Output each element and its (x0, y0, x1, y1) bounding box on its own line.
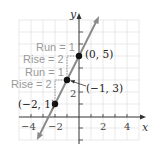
graph-area: y x −4 −2 2 4 2 (0, 5) (−1, 3) (−2, 1) R… (0, 0, 161, 151)
rise-label: Rise = 2 (23, 53, 64, 65)
x-axis-label: x (142, 121, 149, 134)
x-tick-label: −4 (21, 121, 36, 132)
x-axis-arrow-icon (140, 115, 146, 120)
point-0-5 (76, 53, 82, 59)
y-axis-arrow-icon (77, 13, 82, 19)
point-m1-3 (64, 77, 70, 83)
y-axis-label: y (69, 8, 77, 21)
run-label: Run = 1 (36, 41, 75, 53)
run-label: Run = 1 (25, 66, 64, 78)
point-label: (−1, 3) (86, 82, 123, 94)
x-tick-label: 2 (100, 121, 106, 132)
x-tick-label: 4 (124, 121, 130, 132)
point-label: (0, 5) (85, 48, 113, 60)
callout-arrow-head-icon (70, 80, 75, 84)
rise-label: Rise = 2 (11, 78, 52, 90)
x-tick-label: −2 (48, 121, 63, 132)
y-tick-label: 2 (70, 88, 76, 99)
point-label: (−2, 1) (18, 98, 55, 110)
